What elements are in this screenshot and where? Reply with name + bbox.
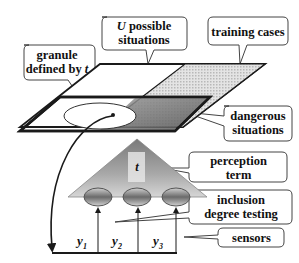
callout-training-cases: training cases (208, 25, 288, 39)
callout-dangerous-situations: dangerous situations (220, 109, 296, 137)
sensor-label-y2: y2 (107, 234, 127, 254)
term-label: t (130, 160, 144, 174)
sensor-label-y3: y3 (148, 234, 168, 254)
inclusion-ovals (84, 188, 190, 206)
callout-possible-situations: U possible situations (100, 19, 188, 47)
granule-perception-diagram: U possible situations training cases gra… (0, 0, 299, 263)
sensor-label-y1: y1 (72, 234, 92, 254)
callout-sensors: sensors (219, 231, 284, 245)
callout-inclusion-degree: inclusion degree testing (190, 193, 292, 221)
granule-ellipse (64, 103, 136, 129)
callout-granule: granule defined by t (19, 48, 95, 76)
callout-perception-term: perception term (190, 154, 287, 182)
